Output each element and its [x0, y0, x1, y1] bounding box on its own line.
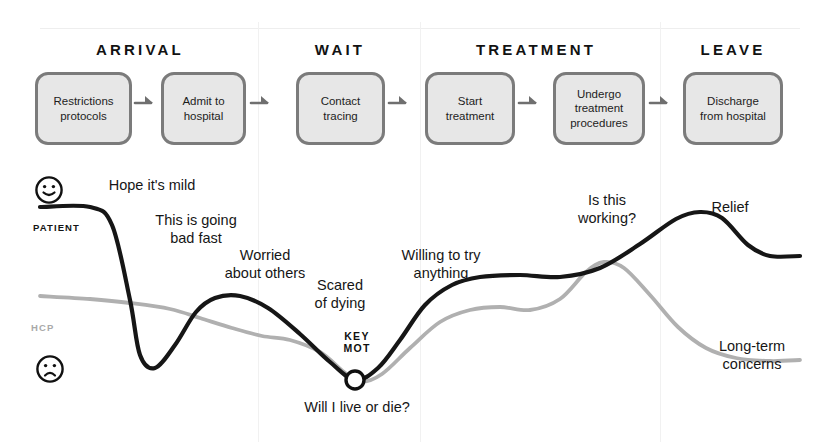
annotation-line: This is going: [155, 212, 236, 230]
annotation-line: anything: [402, 265, 481, 283]
happy-face-icon: [34, 175, 64, 205]
annotation-2: This is goingbad fast: [155, 212, 236, 248]
sad-face-icon: [35, 354, 65, 384]
key-moment-label-line: KEY: [343, 330, 370, 342]
key-moment-label: KEYMOT: [343, 330, 370, 355]
annotation-line: Scared: [315, 277, 366, 295]
annotation-3: Worriedabout others: [225, 247, 306, 283]
annotation-line: Worried: [225, 247, 306, 265]
annotation-line: concerns: [719, 356, 785, 374]
annotation-1: Hope it's mild: [109, 177, 196, 195]
annotation-line: of dying: [315, 295, 366, 313]
annotation-line: bad fast: [155, 230, 236, 248]
annotation-line: Is this: [578, 192, 636, 210]
annotation-line: about others: [225, 265, 306, 283]
annotation-line: Willing to try: [402, 247, 481, 265]
annotation-line: Long-term: [719, 338, 785, 356]
annotation-4: Scaredof dying: [315, 277, 366, 313]
lane-label-hcp: HCP: [31, 322, 54, 333]
annotation-8: Long-termconcerns: [719, 338, 785, 374]
curve-patient: [40, 206, 800, 380]
key-moment-marker[interactable]: [346, 371, 364, 389]
annotation-line: Relief: [711, 199, 748, 217]
annotation-6: Is thisworking?: [578, 192, 636, 228]
journey-map-canvas: ARRIVALWAITTREATMENTLEAVE Restrictionspr…: [0, 0, 822, 446]
key-moment-label-line: MOT: [343, 342, 370, 354]
annotation-line: Will I live or die?: [304, 399, 410, 417]
annotation-7: Relief: [711, 199, 748, 217]
annotation-line: working?: [578, 210, 636, 228]
emotion-curves: [0, 0, 822, 446]
annotation-5: Willing to tryanything: [402, 247, 481, 283]
annotation-9: Will I live or die?: [304, 399, 410, 417]
lane-label-patient: PATIENT: [33, 222, 80, 233]
annotation-line: Hope it's mild: [109, 177, 196, 195]
